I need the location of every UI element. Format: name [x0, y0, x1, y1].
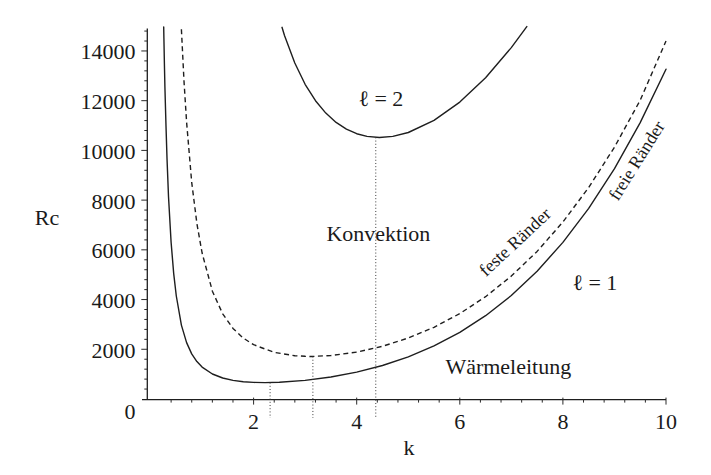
curves — [164, 27, 666, 383]
y-tick-label: 2000 — [92, 338, 136, 363]
annotation-rigid-boundaries: feste Ränder — [475, 204, 555, 280]
curve-l1-rigid-boundaries — [181, 29, 666, 356]
x-tick-label: 2 — [248, 409, 259, 434]
y-tick-label: 0 — [125, 399, 136, 424]
critical-markers — [270, 137, 376, 418]
chart: 02000400060008000100001200014000 246810 … — [0, 0, 711, 475]
annotation-l1: ℓ = 1 — [572, 270, 617, 295]
y-axis-label: Rc — [35, 205, 60, 230]
x-tick-label: 8 — [557, 409, 568, 434]
y-tick-label: 8000 — [92, 189, 136, 214]
curve-l2-free-boundaries — [282, 27, 527, 138]
y-tick-label: 6000 — [92, 238, 136, 263]
curve-l1-free-boundaries — [164, 27, 666, 383]
x-tick-label: 10 — [655, 409, 677, 434]
x-tick-label: 4 — [351, 409, 362, 434]
annotation-l2: ℓ = 2 — [358, 86, 403, 111]
x-tick-label: 6 — [454, 409, 465, 434]
y-axis: 02000400060008000100001200014000 — [81, 29, 148, 424]
x-ticks — [171, 398, 666, 405]
x-tick-labels: 246810 — [248, 409, 677, 434]
x-axis-label: k — [404, 435, 415, 460]
x-axis: 246810 — [142, 398, 677, 434]
y-tick-label: 14000 — [81, 39, 136, 64]
y-ticks — [141, 31, 147, 389]
annotation-conduction-region: Wärmeleitung — [445, 354, 571, 379]
y-tick-label: 4000 — [92, 288, 136, 313]
y-tick-labels: 02000400060008000100001200014000 — [81, 39, 136, 424]
annotation-convection-region: Konvektion — [326, 221, 430, 246]
y-tick-label: 10000 — [81, 139, 136, 164]
y-tick-label: 12000 — [81, 89, 136, 114]
annotations: ℓ = 2 Konvektion Wärmeleitung ℓ = 1 fest… — [326, 86, 668, 380]
